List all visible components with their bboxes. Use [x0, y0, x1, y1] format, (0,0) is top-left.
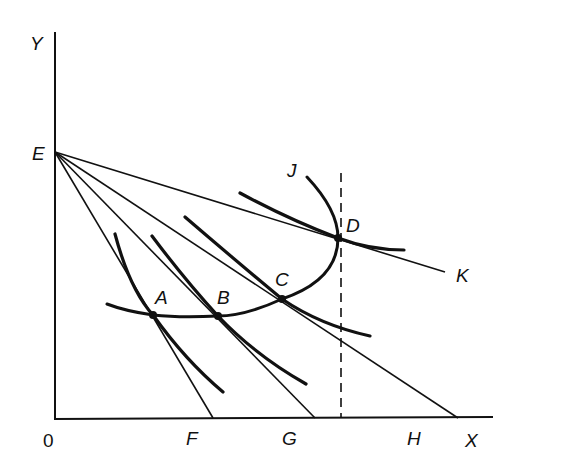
label-J: J [286, 160, 297, 181]
label-E: E [32, 143, 45, 164]
point-D [334, 234, 342, 242]
indifference-curve-B [152, 236, 306, 384]
label-D: D [346, 215, 360, 236]
label-G: G [282, 428, 297, 449]
diagram-canvas: Y X 0 E F G H K J A B C D [0, 0, 581, 475]
label-A: A [154, 287, 168, 308]
indifference-curve-D [240, 193, 404, 250]
x-axis [54, 417, 493, 419]
point-B [214, 312, 222, 320]
label-K: K [456, 265, 470, 286]
origin-label: 0 [43, 430, 54, 451]
budget-line-EH [55, 152, 458, 418]
x-axis-label: X [464, 430, 479, 451]
label-B: B [217, 287, 230, 308]
label-F: F [186, 428, 199, 449]
point-C [278, 295, 286, 303]
label-H: H [407, 428, 421, 449]
point-A [149, 311, 157, 319]
y-axis-label: Y [30, 33, 44, 54]
label-C: C [275, 269, 289, 290]
